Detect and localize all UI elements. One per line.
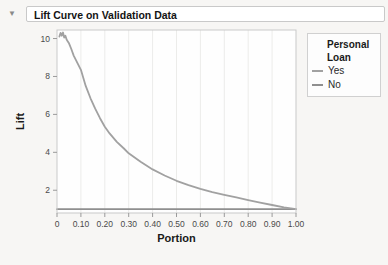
legend-title-line2: Loan <box>327 51 380 64</box>
legend-swatch-line-icon <box>312 84 323 86</box>
section-title-bar[interactable]: Lift Curve on Validation Data <box>26 6 385 22</box>
y-tick-label: 2 <box>45 185 50 195</box>
lift-chart: 00.100.200.300.400.500.600.700.800.901.0… <box>0 25 388 260</box>
disclosure-triangle-icon[interactable]: ▼ <box>8 9 16 19</box>
plot-area[interactable]: 00.100.200.300.400.500.600.700.800.901.0… <box>0 25 305 260</box>
x-tick-label: 0.60 <box>192 219 209 229</box>
y-tick-label: 10 <box>41 34 51 44</box>
y-tick-label: 6 <box>45 109 50 119</box>
x-tick-label: 0.70 <box>216 219 233 229</box>
x-tick-label: 0.50 <box>168 219 185 229</box>
legend-title: Personal Loan <box>308 38 380 64</box>
x-tick-label: 0.20 <box>97 219 114 229</box>
y-tick-label: 4 <box>45 147 50 157</box>
section-title: Lift Curve on Validation Data <box>27 7 384 21</box>
x-tick-label: 0.40 <box>144 219 161 229</box>
y-axis-title: Lift <box>14 113 26 130</box>
x-tick-label: 0.90 <box>264 219 281 229</box>
legend: Personal Loan YesNo <box>307 33 381 97</box>
legend-item-label: No <box>328 78 341 92</box>
x-tick-label: 0.30 <box>120 219 137 229</box>
legend-swatch-line-icon <box>312 70 323 72</box>
x-tick-label: 1.00 <box>288 219 305 229</box>
legend-item-no[interactable]: No <box>308 78 380 92</box>
legend-items: YesNo <box>308 64 380 92</box>
x-tick-label: 0.80 <box>240 219 257 229</box>
legend-item-yes[interactable]: Yes <box>308 64 380 78</box>
legend-item-label: Yes <box>328 64 344 78</box>
x-tick-label: 0 <box>55 219 60 229</box>
x-axis-title: Portion <box>157 232 196 244</box>
y-tick-label: 8 <box>45 71 50 81</box>
x-tick-label: 0.10 <box>73 219 90 229</box>
section-header: ▼ Lift Curve on Validation Data <box>0 6 388 24</box>
legend-title-line1: Personal <box>327 38 380 51</box>
